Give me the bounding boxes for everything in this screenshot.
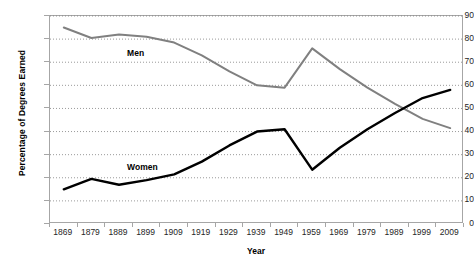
y-axis-title: Percentage of Degrees Earned xyxy=(17,13,27,213)
series-line-men xyxy=(64,28,450,129)
series-label-women: Women xyxy=(127,162,158,172)
line-chart: Percentage of Degrees Earned Year 010203… xyxy=(0,0,474,269)
series-label-men: Men xyxy=(127,48,144,58)
x-axis-title: Year xyxy=(49,246,463,256)
series-lines xyxy=(50,16,464,224)
plot-area: MenWomen xyxy=(49,15,463,223)
x-tick-label: 2009 xyxy=(429,227,469,237)
series-line-women xyxy=(64,90,450,189)
